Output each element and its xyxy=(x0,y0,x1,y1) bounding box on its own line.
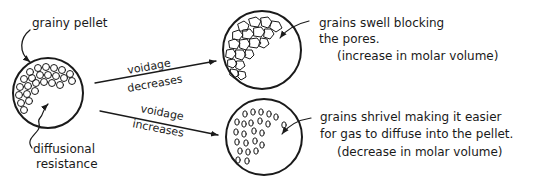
grainy-pellet xyxy=(13,58,83,128)
note-shrivel-line1: grains shrivel making it easier xyxy=(320,110,502,124)
label-voidage-top: voidage xyxy=(126,57,172,77)
label-resistance: resistance xyxy=(36,157,98,171)
label-diffusional: diffusional xyxy=(33,142,95,156)
pellet-grains xyxy=(16,64,76,114)
swollen-grains xyxy=(226,17,282,80)
note-shrivel-line3: (decrease in molar volume) xyxy=(337,145,503,159)
shrivelled-grain-pellet xyxy=(226,99,302,175)
pellet-voidage-diagram: grainy pellet diffusional resistance voi… xyxy=(0,0,541,184)
note-swell-line3: (increase in molar volume) xyxy=(337,49,498,63)
shrivelled-grains xyxy=(234,109,286,164)
note-shrivel-line2: for gas to diffuse into the pellet. xyxy=(320,127,513,141)
label-grainy-pellet: grainy pellet xyxy=(32,16,108,30)
pellet-pointer-arrow xyxy=(22,30,30,62)
swollen-grain-pellet xyxy=(223,11,301,89)
note-swell-line1: grains swell blocking xyxy=(319,16,444,30)
note-swell-line2: the pores. xyxy=(319,32,380,46)
